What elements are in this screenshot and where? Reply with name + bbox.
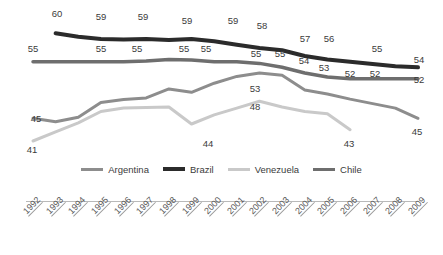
data-label: 60 <box>52 8 63 19</box>
data-label: 52 <box>370 68 381 79</box>
series-layer <box>33 33 418 141</box>
data-label: 54 <box>299 55 310 66</box>
legend-swatch-icon <box>163 167 185 171</box>
x-axis-tick-labels: 1992199319941995199619971998199920002001… <box>0 203 443 253</box>
legend-label: Brazil <box>190 164 214 175</box>
legend-label: Argentina <box>108 164 149 175</box>
legend-label: Chile <box>340 164 362 175</box>
chart-legend: ArgentinaBrazilVenezuelaChile <box>0 160 443 178</box>
series-line-venezuela <box>33 101 350 141</box>
data-label: 55 <box>275 48 286 59</box>
data-label: 53 <box>319 62 330 73</box>
data-label: 45 <box>31 113 42 124</box>
data-label: 54 <box>414 54 425 65</box>
legend-item-chile[interactable]: Chile <box>313 164 362 175</box>
data-label: 59 <box>228 15 239 26</box>
legend-item-venezuela[interactable]: Venezuela <box>228 164 299 175</box>
data-label: 55 <box>251 48 262 59</box>
data-label: 55 <box>28 43 39 54</box>
data-label: 52 <box>345 68 356 79</box>
data-label: 41 <box>27 144 38 155</box>
data-label: 43 <box>344 138 355 149</box>
legend-item-argentina[interactable]: Argentina <box>81 164 149 175</box>
legend-swatch-icon <box>313 168 335 171</box>
data-label: 53 <box>250 83 261 94</box>
data-label: 59 <box>182 15 193 26</box>
data-label: 55 <box>372 43 383 54</box>
data-label: 59 <box>96 11 107 22</box>
data-label: 58 <box>257 20 268 31</box>
data-label: 44 <box>203 138 214 149</box>
data-label: 55 <box>201 43 212 54</box>
legend-label: Venezuela <box>255 164 299 175</box>
legend-item-brazil[interactable]: Brazil <box>163 164 214 175</box>
line-chart: 6059595959585756555455555555555555545352… <box>0 0 443 255</box>
data-label: 48 <box>250 101 261 112</box>
value-labels-layer: 6059595959585756555455555555555555545352… <box>27 8 425 155</box>
legend-swatch-icon <box>81 168 103 171</box>
data-label: 55 <box>96 43 107 54</box>
data-label: 45 <box>412 126 423 137</box>
data-label: 56 <box>324 33 335 44</box>
data-label: 52 <box>414 74 425 85</box>
data-label: 55 <box>179 43 190 54</box>
data-label: 57 <box>300 33 311 44</box>
legend-swatch-icon <box>228 168 250 171</box>
data-label: 55 <box>132 43 143 54</box>
data-label: 59 <box>138 11 149 22</box>
